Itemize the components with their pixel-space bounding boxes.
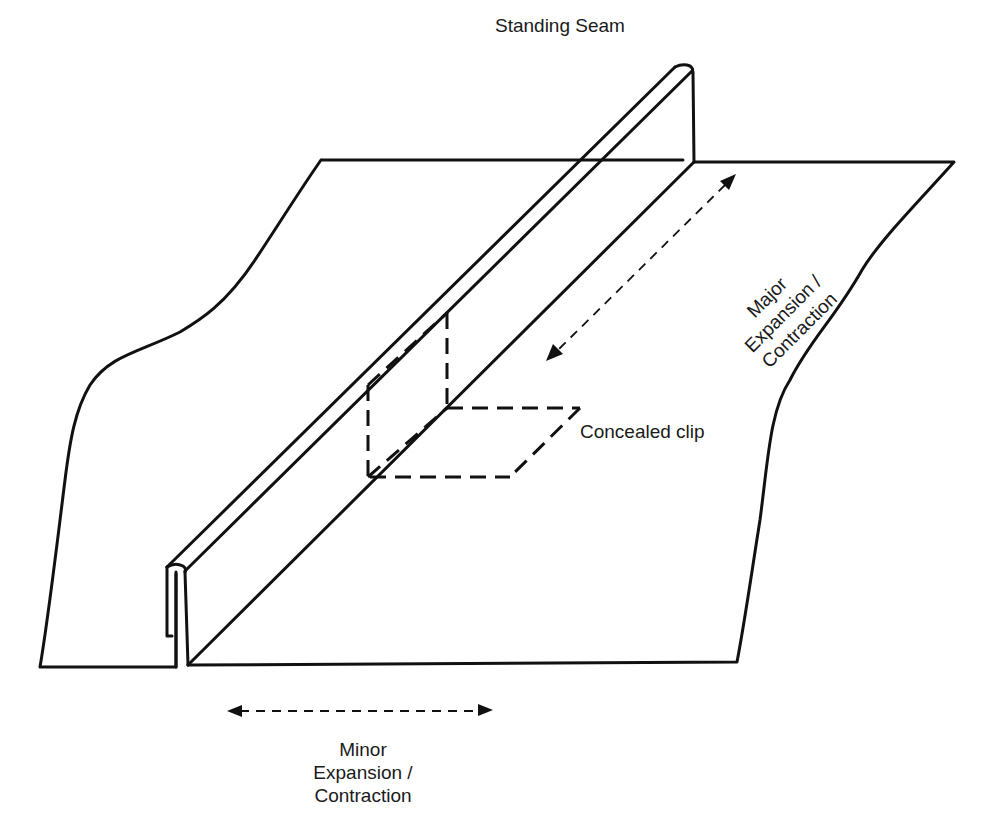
standing-seam-label: Standing Seam (495, 14, 625, 37)
minor-line-3: Contraction (268, 784, 458, 807)
seam-hook-outer (167, 567, 172, 636)
seam-top-front-edge (185, 71, 692, 571)
minor-expansion-label: Minor Expansion / Contraction (268, 738, 458, 807)
seam-front-vertical (185, 572, 188, 665)
major-expansion-arrow (546, 174, 736, 361)
seam-base-line (188, 162, 694, 665)
minor-expansion-arrow (227, 704, 493, 717)
seam-back-vertical (693, 72, 694, 162)
minor-line-1: Minor (268, 738, 458, 761)
minor-line-2: Expansion / (268, 761, 458, 784)
concealed-clip-label: Concealed clip (580, 420, 705, 443)
seam-top-back-edge (167, 67, 675, 567)
left-panel (40, 160, 683, 667)
standing-seam-diagram (0, 0, 990, 835)
